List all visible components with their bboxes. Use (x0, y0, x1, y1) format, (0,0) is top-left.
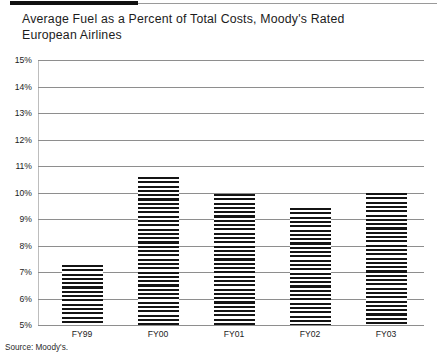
bar-fy99 (62, 265, 103, 325)
y-axis-tick-label: 11% (4, 162, 32, 171)
gridline-15pct (38, 60, 424, 61)
gridline-14pct (38, 87, 424, 88)
x-axis-tick-label-fy02: FY02 (280, 329, 340, 339)
bar-fy03 (366, 193, 407, 325)
bar-fy02 (290, 208, 331, 325)
chart-plot-area: 15%14%13%12%11%10%9%8%7%6%5%FY99FY00FY01… (0, 0, 437, 357)
bar-fy00 (138, 177, 179, 325)
y-axis-tick-label: 12% (4, 136, 32, 145)
gridline-13pct (38, 113, 424, 114)
gridline-11pct (38, 166, 424, 167)
x-axis-tick-label-fy01: FY01 (204, 329, 264, 339)
y-axis-tick-label: 6% (4, 295, 32, 304)
source-note: Source: Moody's. (5, 343, 68, 352)
gridline-5pct (38, 325, 424, 326)
gridline-12pct (38, 140, 424, 141)
x-axis-tick-label-fy99: FY99 (52, 329, 112, 339)
y-axis-tick-label: 9% (4, 215, 32, 224)
y-axis-tick-label: 13% (4, 109, 32, 118)
y-axis-tick-label: 7% (4, 268, 32, 277)
y-axis-tick-label: 10% (4, 189, 32, 198)
y-axis-tick-label: 8% (4, 242, 32, 251)
x-axis-tick-label-fy03: FY03 (356, 329, 416, 339)
y-axis-tick-label: 14% (4, 83, 32, 92)
y-axis-tick-label: 15% (4, 56, 32, 65)
x-axis-tick-label-fy00: FY00 (128, 329, 188, 339)
y-axis-tick-label: 5% (4, 321, 32, 330)
bar-fy01 (214, 194, 255, 325)
